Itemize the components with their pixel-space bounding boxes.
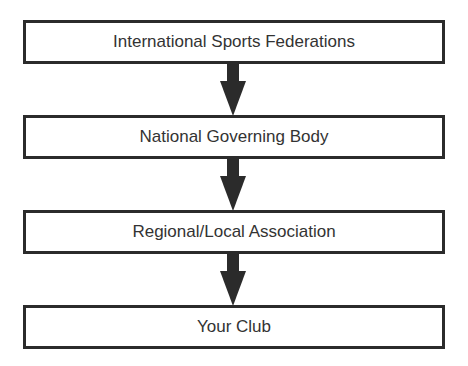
node-label: National Governing Body [139,127,328,147]
node-label: International Sports Federations [113,32,355,52]
down-arrow-icon [219,254,247,306]
node-label: Your Club [197,317,271,337]
node-label: Regional/Local Association [132,222,335,242]
node-your-club: Your Club [23,305,445,349]
down-arrow-icon [219,159,247,211]
node-international-sports-federations: International Sports Federations [23,20,445,64]
down-arrow-icon [219,64,247,116]
node-national-governing-body: National Governing Body [23,115,445,159]
node-regional-local-association: Regional/Local Association [23,210,445,254]
